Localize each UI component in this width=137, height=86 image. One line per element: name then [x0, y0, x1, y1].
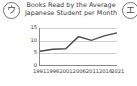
circled-katakana-u-icon: ウ: [3, 2, 20, 19]
x-tick-1991: 1991: [33, 68, 46, 74]
chart-title-line-1: Books Read by the Average: [22, 1, 120, 9]
badge-right-glyph: エ: [126, 6, 135, 15]
badge-left-glyph: ウ: [7, 6, 16, 15]
x-tick-1996: 1996: [46, 68, 59, 74]
x-tick-2011: 2011: [86, 68, 99, 74]
chart-screenshot: ウ エ Books Read by the Average Japanese S…: [0, 0, 137, 86]
line-chart: 15 10 5 0 1991 1996 2001 2006 2011 2016 …: [26, 25, 119, 80]
y-tick-10: 10: [30, 38, 37, 43]
chart-title: Books Read by the Average Japanese Stude…: [22, 1, 120, 17]
x-axis-tick-labels: 1991 1996 2001 2006 2011 2016 2021: [38, 68, 119, 77]
y-tick-15: 15: [30, 25, 37, 30]
data-series-line: [40, 28, 117, 65]
y-axis-tick-labels: 15 10 5 0: [26, 25, 38, 69]
x-tick-2001: 2001: [59, 68, 72, 74]
circled-katakana-e-icon: エ: [122, 2, 137, 19]
x-tick-2021: 2021: [111, 68, 124, 74]
chart-title-line-2: Japanese Student per Month: [22, 9, 120, 17]
y-tick-5: 5: [34, 51, 37, 56]
plot-area: [39, 28, 117, 66]
x-tick-2006: 2006: [73, 68, 86, 74]
